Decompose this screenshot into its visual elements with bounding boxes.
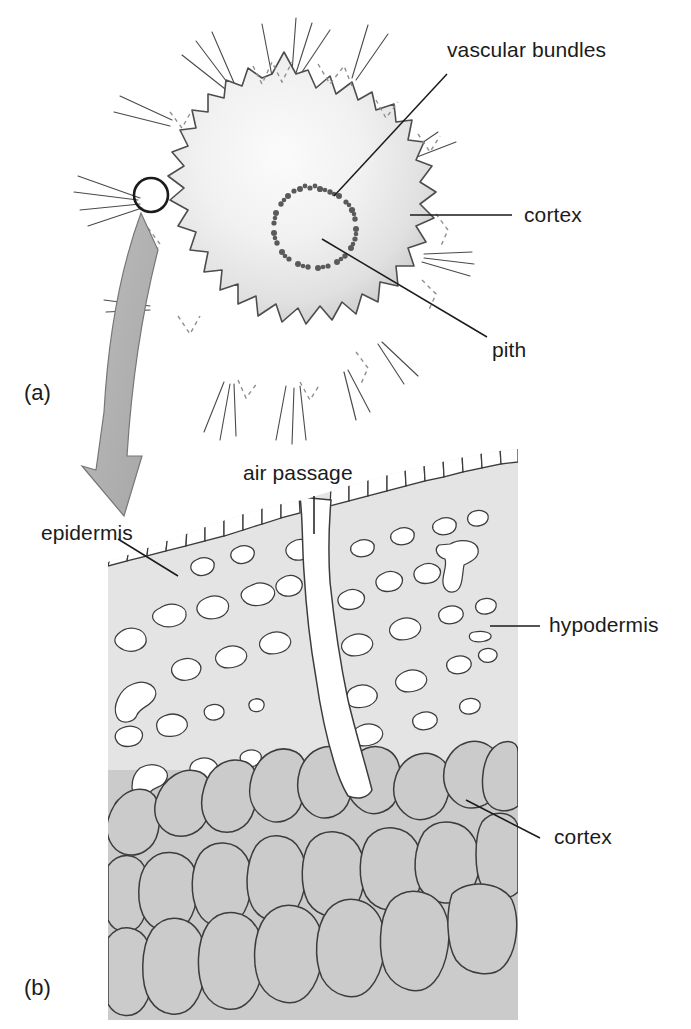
panel-label-a: (a)	[24, 380, 51, 406]
label-hypodermis: hypodermis	[549, 613, 659, 637]
panel-b-tissue-block	[100, 440, 526, 1029]
label-vascular-bundles: vascular bundles	[447, 38, 606, 62]
label-cortex-a: cortex	[524, 203, 582, 227]
panel-b-drawing	[0, 0, 691, 1029]
figure-root: vascular bundles cortex pith (a) air pas…	[0, 0, 691, 1029]
panel-label-b: (b)	[24, 975, 51, 1001]
label-air-passage: air passage	[243, 461, 353, 485]
label-pith: pith	[492, 338, 526, 362]
label-epidermis: epidermis	[41, 521, 133, 545]
label-cortex-b: cortex	[554, 825, 612, 849]
